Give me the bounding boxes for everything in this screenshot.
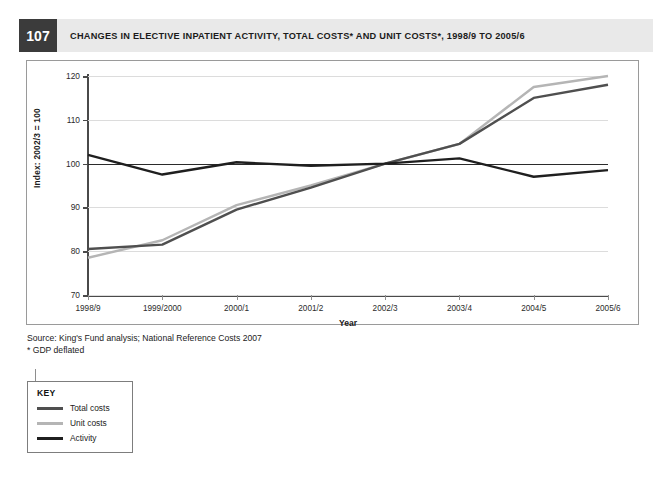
x-tick-label-7: 2005/6	[595, 304, 620, 313]
y-tick-label-110: 110	[67, 115, 80, 125]
x-tick-label-5: 2003/4	[447, 304, 472, 313]
x-tick-mark-6	[534, 295, 535, 300]
y-tick-label-90: 90	[71, 202, 80, 212]
legend-item: Unit costs	[37, 418, 132, 428]
legend-item: Activity	[37, 433, 132, 443]
x-tick-mark-5	[459, 295, 460, 300]
legend-swatch-icon	[37, 407, 63, 410]
legend-item-label: Total costs	[70, 403, 110, 413]
legend-swatch-icon	[37, 437, 63, 440]
y-tick-label-100: 100	[66, 159, 80, 169]
x-tick-mark-4	[385, 295, 386, 300]
y-tick-mark-120	[83, 76, 88, 78]
series-line-total-costs	[88, 85, 608, 249]
y-tick-mark-110	[83, 120, 88, 122]
figure-header: 107 CHANGES IN ELECTIVE INPATIENT ACTIVI…	[19, 19, 653, 52]
source-line-2: * GDP deflated	[27, 344, 262, 356]
source-line-1: Source: King's Fund analysis; National R…	[27, 332, 262, 344]
legend-title: KEY	[37, 388, 132, 398]
x-tick-label-4: 2002/3	[373, 304, 398, 313]
x-tick-label-6: 2004/5	[521, 304, 546, 313]
page-title: CHANGES IN ELECTIVE INPATIENT ACTIVITY, …	[57, 19, 653, 52]
legend-swatch-icon	[37, 422, 63, 425]
x-tick-mark-7	[608, 295, 609, 300]
x-tick-mark-2	[237, 295, 238, 300]
figure-number-badge: 107	[19, 19, 57, 52]
legend-item-label: Unit costs	[70, 418, 107, 428]
x-tick-mark-1	[162, 295, 163, 300]
gridline-70	[88, 295, 608, 296]
figure-page: 107 CHANGES IN ELECTIVE INPATIENT ACTIVI…	[0, 0, 672, 482]
x-tick-label-1: 1999/2000	[143, 304, 182, 313]
series-lines	[88, 76, 608, 295]
legend-item: Total costs	[37, 403, 132, 413]
y-tick-mark-80	[83, 251, 88, 253]
x-axis-title: Year	[87, 318, 609, 328]
legend-item-label: Activity	[70, 433, 97, 443]
x-tick-label-0: 1998/9	[75, 304, 100, 313]
y-axis-title: Index: 2002/3 = 100	[32, 108, 42, 188]
legend-items: Total costsUnit costsActivity	[37, 403, 132, 443]
y-tick-mark-100	[83, 164, 88, 166]
x-tick-label-2: 2000/1	[224, 304, 249, 313]
y-tick-label-70: 70	[71, 290, 80, 300]
x-tick-mark-0	[88, 295, 89, 300]
plot-area	[88, 76, 608, 295]
x-tick-label-3: 2001/2	[298, 304, 323, 313]
y-tick-label-80: 80	[71, 246, 80, 256]
y-tick-mark-90	[83, 207, 88, 209]
y-tick-label-120: 120	[66, 71, 80, 81]
chart-plot-wrapper: Index: 2002/3 = 100 708090100110120 1998…	[26, 60, 639, 325]
source-note: Source: King's Fund analysis; National R…	[27, 332, 262, 356]
series-line-unit-costs	[88, 76, 608, 258]
chart-legend: KEY Total costsUnit costsActivity	[27, 381, 133, 453]
x-tick-mark-3	[311, 295, 312, 300]
